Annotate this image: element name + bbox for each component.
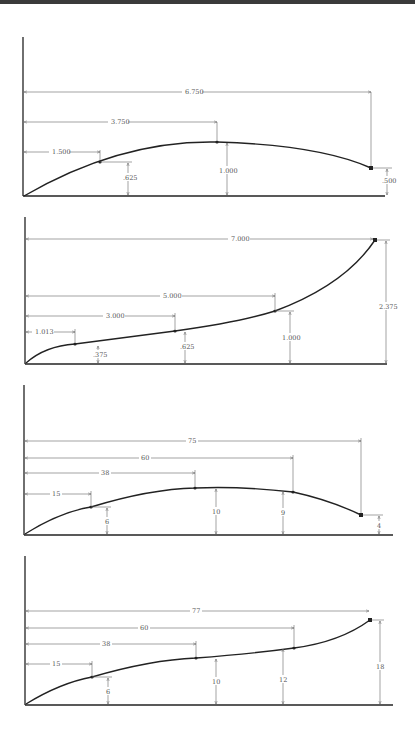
point	[194, 656, 197, 659]
curve	[26, 620, 370, 704]
dim-label: 38	[102, 640, 110, 648]
dim-label: 6.750	[185, 88, 204, 96]
dim-label: 77	[192, 607, 200, 615]
dim-label: 38	[101, 469, 109, 477]
dim-label: 3.750	[111, 118, 130, 126]
dim-label: 75	[188, 437, 196, 445]
panel-4: 77 60 38 15 6 10 12 18	[25, 556, 393, 705]
curve	[25, 488, 361, 535]
dim-label: 5.000	[163, 292, 182, 300]
dim-label: .625	[123, 174, 137, 182]
point	[291, 490, 294, 493]
dim-label: 1.000	[282, 334, 301, 342]
panel-2: 7.000 5.000 3.000 1.013 .375 .625 1.000 …	[25, 217, 398, 364]
endpoint	[373, 238, 377, 242]
curve	[24, 142, 371, 196]
point	[292, 646, 295, 649]
dim-label: 9	[281, 509, 285, 517]
dim-label: 15	[52, 660, 60, 668]
dim-label: .375	[93, 351, 107, 359]
dim-label: 1.013	[35, 328, 54, 336]
dim-label: 10	[212, 678, 220, 686]
panel-1: 6.750 3.750 1.500 .625 1.000 .500	[23, 37, 396, 196]
dim-label: 60	[140, 624, 148, 632]
curve-dimension-drawing: 6.750 3.750 1.500 .625 1.000 .500 7.000 …	[0, 0, 415, 739]
dim-label: 4	[377, 522, 381, 530]
dim-label: 15	[52, 490, 60, 498]
endpoint	[359, 513, 363, 517]
dim-label: 7.000	[231, 235, 250, 243]
dim-label: 18	[376, 663, 384, 671]
point	[173, 329, 176, 332]
endpoint	[368, 618, 372, 622]
curve	[26, 240, 375, 363]
point	[215, 140, 218, 143]
endpoint	[369, 166, 373, 170]
dim-label: 2.375	[379, 303, 398, 311]
dim-label: 12	[279, 676, 287, 684]
point	[193, 486, 196, 489]
point	[73, 342, 76, 345]
panel-3: 75 60 38 15 6 10 9 4	[24, 385, 393, 535]
dim-label: 1.500	[52, 148, 71, 156]
dim-label: 1.000	[219, 167, 238, 175]
dim-label: .500	[382, 177, 396, 185]
dim-label: 10	[212, 508, 220, 516]
dim-label: 6	[106, 688, 110, 696]
dim-label: .625	[180, 343, 194, 351]
dim-label: 3.000	[106, 312, 125, 320]
dim-label: 60	[141, 454, 149, 462]
dim-label: 6	[105, 518, 109, 526]
